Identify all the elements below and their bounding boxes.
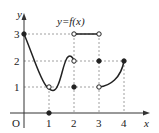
point-0-3-closed	[22, 32, 26, 36]
function-graph: y=f(x) y x O 3 2 1 1 2 3 4	[0, 0, 159, 133]
point-1-0-closed	[47, 111, 51, 115]
point-4-2-closed	[122, 59, 126, 63]
curve-piece-3	[99, 61, 124, 87]
y-axis-label: y	[16, 8, 22, 20]
curve-piece-1	[24, 34, 74, 91]
x-axis-label: x	[143, 117, 149, 129]
point-1-1-open	[47, 85, 51, 89]
point-3-1-open	[97, 85, 101, 89]
x-tick-1: 1	[46, 117, 52, 129]
x-tick-2: 2	[71, 117, 77, 129]
x-tick-4: 4	[121, 117, 127, 129]
point-2-1-closed	[72, 85, 76, 89]
point-3-2-closed	[97, 59, 101, 63]
y-tick-3: 3	[14, 28, 20, 40]
axes	[10, 13, 150, 128]
point-3-3-open	[97, 32, 101, 36]
x-tick-3: 3	[96, 117, 102, 129]
function-label: y=f(x)	[56, 15, 85, 28]
y-tick-1: 1	[14, 81, 20, 93]
point-2-3-open	[72, 32, 76, 36]
origin-label: O	[12, 117, 20, 129]
point-2-2-open	[72, 59, 76, 63]
y-tick-2: 2	[14, 55, 20, 67]
